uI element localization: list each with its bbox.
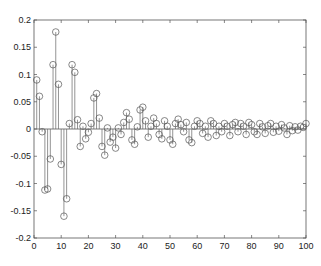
x-tick-label: 90 xyxy=(274,241,284,251)
y-tick-label: 0.1 xyxy=(18,70,31,80)
y-tick-label: -0.05 xyxy=(10,151,31,161)
x-tick-label: 100 xyxy=(298,241,313,251)
x-tick-label: 0 xyxy=(31,241,36,251)
x-tick-label: 50 xyxy=(165,241,175,251)
y-tick-label: 0.2 xyxy=(18,15,31,25)
y-tick-label: -0.2 xyxy=(15,233,31,243)
x-tick-label: 80 xyxy=(247,241,257,251)
y-tick-label: 0.15 xyxy=(13,42,31,52)
y-tick-label: 0.05 xyxy=(13,97,31,107)
x-tick-label: 70 xyxy=(219,241,229,251)
x-tick-label: 20 xyxy=(83,241,93,251)
x-tick-label: 60 xyxy=(192,241,202,251)
x-tick-label: 10 xyxy=(56,241,66,251)
x-tick-label: 30 xyxy=(111,241,121,251)
y-tick-label: -0.15 xyxy=(10,206,31,216)
stem-plot: 0102030405060708090100-0.2-0.15-0.1-0.05… xyxy=(0,0,321,266)
y-tick-label: -0.1 xyxy=(15,179,31,189)
x-tick-label: 40 xyxy=(138,241,148,251)
y-tick-label: 0 xyxy=(26,124,31,134)
